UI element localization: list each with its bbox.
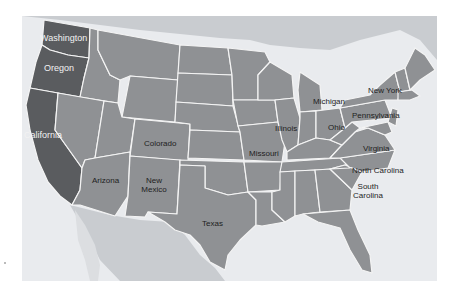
label-south-carolina: South Carolina	[352, 182, 384, 200]
edge-mark	[4, 262, 6, 264]
label-illinois: Illinois	[275, 124, 297, 133]
label-arizona: Arizona	[92, 176, 119, 185]
state-wyoming[interactable]	[122, 76, 178, 122]
label-washington: Washington	[40, 34, 87, 43]
label-texas: Texas	[202, 219, 223, 228]
label-pennsylvania: Pennsylvania	[352, 111, 400, 120]
state-montana[interactable]	[98, 30, 180, 80]
state-south-dakota[interactable]	[176, 73, 233, 106]
label-michigan: Michigan	[313, 97, 345, 106]
state-north-dakota[interactable]	[178, 45, 232, 75]
state-florida[interactable]	[303, 210, 372, 273]
state-kansas[interactable]	[188, 130, 244, 160]
label-missouri: Missouri	[249, 149, 279, 158]
label-new-york: New York	[368, 86, 402, 95]
state-arkansas[interactable]	[244, 162, 282, 192]
label-california: California	[24, 131, 62, 140]
label-colorado: Colorado	[144, 139, 176, 148]
label-virginia: Virginia	[363, 144, 390, 153]
label-north-carolina: North Carolina	[352, 166, 404, 175]
label-new-mexico: New Mexico	[140, 176, 168, 194]
us-map: Washington Oregon California Arizona New…	[22, 16, 437, 281]
label-ohio: Ohio	[328, 123, 345, 132]
label-oregon: Oregon	[44, 64, 74, 73]
state-maine[interactable]	[405, 48, 435, 90]
